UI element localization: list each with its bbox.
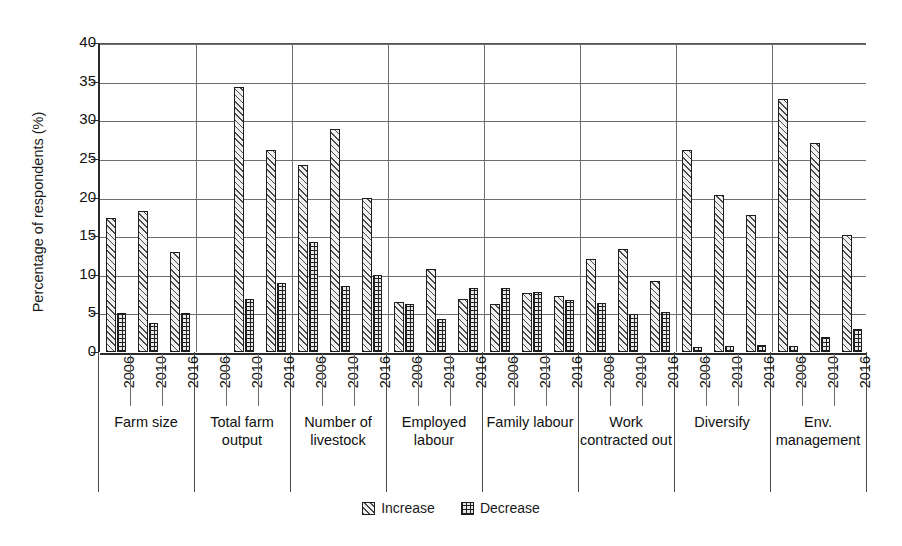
bar-decrease[interactable]: [181, 313, 191, 352]
gridline-40: [100, 44, 866, 45]
bar-increase[interactable]: [586, 259, 596, 352]
y-tick-label-20: 20: [36, 189, 96, 204]
category-label: Family labour: [484, 414, 576, 432]
bar-fill-decrease: [277, 283, 287, 352]
bar-fill-decrease: [373, 275, 383, 352]
bar-increase[interactable]: [554, 296, 564, 352]
year-tick-label: 2010: [153, 356, 169, 388]
category-label: Env. management: [772, 414, 864, 449]
category-divider-7: [772, 44, 773, 352]
y-axis-title: Percentage of respondents (%): [30, 52, 46, 372]
year-separator: [354, 354, 355, 406]
year-tick-label: 2016: [185, 356, 201, 388]
bar-increase[interactable]: [522, 293, 532, 352]
legend-label-increase: Increase: [381, 500, 435, 516]
bar-increase[interactable]: [682, 150, 692, 352]
bar-increase[interactable]: [650, 281, 660, 352]
bar-decrease[interactable]: [661, 312, 671, 352]
y-tick-label-15: 15: [36, 227, 96, 242]
bar-increase[interactable]: [298, 165, 308, 352]
year-tick-label: 2010: [633, 356, 649, 388]
gridline-35: [100, 83, 866, 84]
bar-increase[interactable]: [362, 198, 372, 352]
year-tick-label: 2006: [793, 356, 809, 388]
year-separator: [802, 354, 803, 406]
bar-increase[interactable]: [714, 195, 724, 352]
bar-decrease[interactable]: [373, 275, 383, 352]
bar-decrease[interactable]: [821, 337, 831, 352]
bar-fill-decrease: [309, 242, 319, 352]
bar-fill-increase: [650, 281, 660, 352]
bar-fill-increase: [298, 165, 308, 352]
year-separator: [162, 354, 163, 406]
y-tick-label-5: 5: [36, 304, 96, 319]
year-tick-label: 2010: [249, 356, 265, 388]
bar-decrease[interactable]: [853, 329, 863, 352]
bar-increase[interactable]: [106, 218, 116, 352]
bar-decrease[interactable]: [245, 299, 255, 352]
year-separator: [450, 354, 451, 406]
bar-decrease[interactable]: [437, 319, 447, 352]
bar-increase[interactable]: [170, 252, 180, 352]
bar-fill-decrease: [661, 312, 671, 352]
bar-decrease[interactable]: [149, 323, 159, 352]
bar-decrease[interactable]: [629, 314, 639, 352]
category-label: Number of livestock: [292, 414, 384, 449]
bar-increase[interactable]: [426, 269, 436, 352]
bar-decrease[interactable]: [341, 286, 351, 352]
bar-fill-decrease: [341, 286, 351, 352]
bar-increase[interactable]: [746, 215, 756, 352]
bar-decrease[interactable]: [277, 283, 287, 352]
bar-decrease[interactable]: [405, 304, 415, 352]
category-divider-3: [388, 44, 389, 352]
year-separator: [418, 354, 419, 406]
year-tick-label: 2010: [441, 356, 457, 388]
year-tick-label: 2006: [121, 356, 137, 388]
year-tick-label: 2006: [409, 356, 425, 388]
bar-decrease[interactable]: [469, 288, 479, 352]
y-tick-label-40: 40: [36, 34, 96, 49]
bar-decrease[interactable]: [117, 313, 127, 352]
bar-decrease[interactable]: [309, 242, 319, 352]
bar-increase[interactable]: [394, 302, 404, 352]
year-tick-label: 2016: [761, 356, 777, 388]
year-tick-label: 2006: [697, 356, 713, 388]
bar-decrease[interactable]: [757, 345, 767, 352]
bar-increase[interactable]: [490, 304, 500, 352]
y-tick-label-30: 30: [36, 111, 96, 126]
chart-figure: Percentage of respondents (%) 4035302520…: [0, 0, 902, 546]
y-tick-label-35: 35: [36, 73, 96, 88]
bar-fill-increase: [746, 215, 756, 352]
increase-swatch-icon: [362, 502, 375, 515]
bar-fill-decrease: [405, 304, 415, 352]
category-divider-4: [484, 44, 485, 352]
bar-increase[interactable]: [234, 87, 244, 352]
legend-item-decrease[interactable]: Decrease: [461, 500, 540, 516]
bar-decrease[interactable]: [565, 300, 575, 352]
legend-item-increase[interactable]: Increase: [362, 500, 435, 516]
bar-increase[interactable]: [618, 249, 628, 352]
bar-fill-increase: [778, 99, 788, 352]
year-separator: [226, 354, 227, 406]
bar-increase[interactable]: [810, 143, 820, 352]
bar-fill-increase: [682, 150, 692, 352]
bar-increase[interactable]: [266, 150, 276, 352]
category-separator-0: [98, 352, 99, 492]
y-tick-mark-15: [91, 236, 98, 237]
category-divider-2: [292, 44, 293, 352]
bar-decrease[interactable]: [533, 292, 543, 352]
year-tick-label: 2006: [505, 356, 521, 388]
bar-increase[interactable]: [842, 235, 852, 352]
bar-increase[interactable]: [458, 299, 468, 352]
year-separator: [130, 354, 131, 406]
bar-increase[interactable]: [138, 211, 148, 352]
bar-increase[interactable]: [778, 99, 788, 352]
bar-fill-decrease: [437, 319, 447, 352]
bar-increase[interactable]: [330, 129, 340, 352]
bar-decrease[interactable]: [501, 288, 511, 352]
category-label: Work contracted out: [580, 414, 672, 449]
bar-decrease[interactable]: [597, 303, 607, 352]
category-divider-1: [196, 44, 197, 352]
year-separator: [322, 354, 323, 406]
bar-fill-increase: [394, 302, 404, 352]
